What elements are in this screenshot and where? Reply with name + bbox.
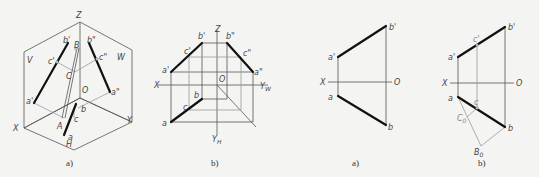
label-B: B: [74, 41, 80, 50]
label-c-dprime: c": [99, 53, 107, 62]
label-a: a: [162, 119, 167, 128]
label-c-dprime: c": [243, 49, 251, 58]
label-X: X: [12, 124, 19, 133]
label-c-prime: c': [473, 35, 480, 44]
label-a: a: [448, 94, 453, 103]
label-a-dprime: a": [254, 68, 263, 77]
label-O: O: [516, 79, 522, 88]
label-b-prime: b': [198, 32, 205, 41]
label-O: O: [82, 86, 88, 95]
caption-2a: a): [352, 158, 359, 168]
drawing-canvas: Z V W X Y H O b' b" c' c" C B a' a" b c …: [0, 0, 539, 177]
projector-c-dprime: [75, 59, 97, 72]
label-X: X: [441, 79, 448, 88]
label-b: b: [194, 91, 199, 100]
label-c: c: [74, 115, 79, 124]
label-B0: B0: [474, 148, 484, 158]
v-projection-a-prime-b-prime: [34, 43, 68, 103]
label-C0: C0: [457, 114, 467, 124]
point-c-dprime: [96, 58, 98, 60]
projector-a-prime-to-a: [34, 103, 64, 118]
label-a-prime: a': [328, 53, 335, 62]
label-a-prime: a': [162, 66, 169, 75]
figure-2b-division-construction: X O b' c' a' a c b C0 B0 b): [441, 23, 522, 168]
point-c-prime: [476, 44, 478, 46]
label-b-dprime: b": [226, 32, 235, 41]
h-plane-outline: [24, 122, 132, 150]
label-b: b: [508, 124, 513, 133]
label-O: O: [219, 75, 225, 84]
figure-1a-isometric: Z V W X Y H O b' b" c' c" C B a' a" b c …: [12, 11, 133, 168]
label-c: c: [474, 98, 479, 107]
label-b-prime: b': [63, 36, 70, 45]
label-b: b: [81, 105, 86, 114]
label-Yw: YW: [260, 82, 272, 92]
top-view-ab: [338, 96, 386, 125]
caption-2b: b): [478, 158, 486, 168]
label-a-dprime: a": [111, 88, 120, 97]
point-c: [476, 107, 478, 109]
label-a: a: [68, 133, 73, 142]
line-B0-b: [481, 127, 505, 146]
label-O: O: [394, 78, 400, 87]
label-Z: Z: [214, 25, 221, 34]
label-X: X: [153, 81, 160, 90]
45-degree-line: [217, 85, 256, 127]
label-b-prime: b': [389, 23, 396, 32]
front-view-a-prime-b-prime: [338, 26, 386, 57]
label-b-dprime: b": [87, 36, 96, 45]
y-axis: [80, 98, 132, 122]
figure-2a-two-views: X O b' a' a b a): [319, 23, 400, 168]
label-V: V: [27, 56, 33, 65]
label-c-prime: c': [184, 47, 191, 56]
caption-1a: a): [66, 158, 73, 168]
caption-1b: b): [211, 158, 219, 168]
label-b: b: [388, 123, 393, 132]
point-c-prime: [56, 61, 58, 63]
label-a: a: [328, 93, 333, 102]
w-projection-a-dprime-b-dprime: [89, 43, 110, 92]
label-W: W: [117, 53, 126, 62]
figure-1b-three-views: Z X O YW YH b' b" c' c" a' a" b c a b): [153, 25, 272, 168]
front-view-a-prime-b-prime: [458, 27, 505, 57]
label-c: c: [183, 103, 188, 112]
label-a-prime: a': [26, 97, 33, 106]
label-a-prime: a': [448, 53, 455, 62]
label-X: X: [319, 78, 326, 87]
label-Z: Z: [75, 11, 82, 20]
space-line-ab-edge: [65, 48, 79, 118]
label-C: C: [66, 72, 72, 81]
label-Yh: YH: [212, 135, 222, 145]
label-b-prime: b': [508, 23, 515, 32]
label-A: A: [56, 122, 62, 131]
label-c-prime: c': [48, 57, 55, 66]
